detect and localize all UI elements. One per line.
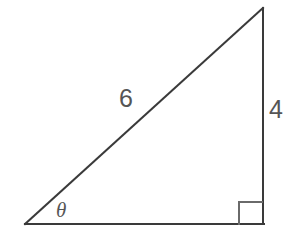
theta-angle-label: θ	[56, 200, 66, 221]
opposite-side-length-label: 4	[269, 97, 283, 122]
triangle-side-hypotenuse	[25, 8, 263, 224]
hypotenuse-length-label: 6	[119, 86, 133, 111]
right-angle-marker-icon	[239, 202, 262, 224]
triangle-drawing	[0, 0, 299, 230]
right-triangle-figure: 6 4 θ	[0, 0, 299, 230]
